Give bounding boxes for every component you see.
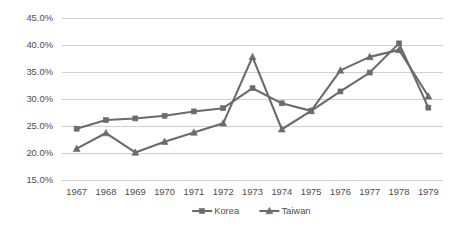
data-point-korea-1972 bbox=[221, 106, 226, 111]
x-tick-label: 1976 bbox=[330, 186, 351, 197]
x-tick-label: 1969 bbox=[125, 186, 146, 197]
data-point-korea-1977 bbox=[367, 70, 372, 75]
data-point-korea-1976 bbox=[338, 89, 343, 94]
y-tick-label: 20.0% bbox=[26, 147, 53, 158]
legend-label-korea: Korea bbox=[214, 205, 240, 216]
x-axis-labels: 1967196819691970197119721973197419751976… bbox=[66, 186, 439, 197]
legend-item-taiwan[interactable]: Taiwan bbox=[259, 205, 310, 216]
data-point-korea-1971 bbox=[191, 109, 196, 114]
data-point-korea-1974 bbox=[279, 101, 284, 106]
data-point-korea-1970 bbox=[162, 113, 167, 118]
line-chart: 45.0%40.0%35.0%30.0%25.0%20.0%15.0%19671… bbox=[0, 0, 456, 229]
data-point-korea-1967 bbox=[74, 126, 79, 131]
legend-item-korea[interactable]: Korea bbox=[192, 205, 240, 216]
legend-marker-korea bbox=[200, 209, 205, 214]
legend-label-taiwan: Taiwan bbox=[281, 205, 310, 216]
y-tick-label: 30.0% bbox=[26, 93, 53, 104]
data-point-taiwan-1968 bbox=[103, 129, 110, 135]
data-point-korea-1978 bbox=[397, 41, 402, 46]
y-tick-label: 40.0% bbox=[26, 39, 53, 50]
y-tick-label: 35.0% bbox=[26, 66, 53, 77]
data-point-korea-1969 bbox=[133, 116, 138, 121]
x-tick-label: 1972 bbox=[213, 186, 234, 197]
gridlines bbox=[62, 19, 443, 181]
x-tick-label: 1977 bbox=[359, 186, 380, 197]
y-axis-labels: 45.0%40.0%35.0%30.0%25.0%20.0%15.0% bbox=[26, 12, 53, 185]
data-point-taiwan-1973 bbox=[249, 53, 256, 59]
chart-canvas: 45.0%40.0%35.0%30.0%25.0%20.0%15.0%19671… bbox=[0, 0, 456, 229]
data-point-taiwan-1972 bbox=[220, 120, 227, 126]
data-point-korea-1973 bbox=[250, 86, 255, 91]
x-tick-label: 1968 bbox=[96, 186, 117, 197]
y-tick-label: 25.0% bbox=[26, 120, 53, 131]
x-tick-label: 1978 bbox=[389, 186, 410, 197]
x-tick-label: 1967 bbox=[66, 186, 87, 197]
x-tick-label: 1970 bbox=[154, 186, 175, 197]
x-tick-label: 1974 bbox=[271, 186, 292, 197]
data-point-korea-1968 bbox=[103, 118, 108, 123]
x-tick-label: 1979 bbox=[418, 186, 439, 197]
x-tick-label: 1975 bbox=[301, 186, 322, 197]
series-taiwan bbox=[73, 46, 432, 155]
y-tick-label: 15.0% bbox=[26, 174, 53, 185]
x-tick-label: 1971 bbox=[183, 186, 204, 197]
data-point-korea-1979 bbox=[426, 105, 431, 110]
x-tick-label: 1973 bbox=[242, 186, 263, 197]
y-tick-label: 45.0% bbox=[26, 12, 53, 23]
